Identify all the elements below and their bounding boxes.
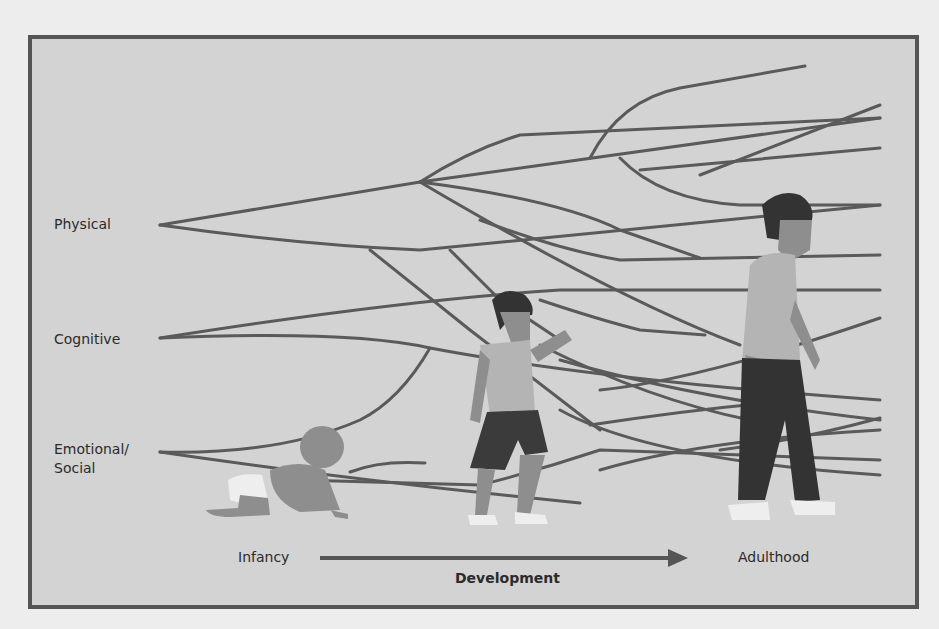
- infant-figure: [206, 426, 348, 519]
- development-branches: [0, 0, 939, 629]
- development-arrow: [320, 549, 688, 567]
- label-infancy: Infancy: [238, 548, 289, 567]
- label-physical: Physical: [54, 215, 111, 234]
- label-emotional: Emotional/: [54, 440, 129, 459]
- label-social: Social: [54, 459, 96, 478]
- label-cognitive: Cognitive: [54, 330, 120, 349]
- label-adulthood: Adulthood: [738, 548, 809, 567]
- child-figure: [468, 291, 572, 525]
- label-development: Development: [455, 569, 560, 588]
